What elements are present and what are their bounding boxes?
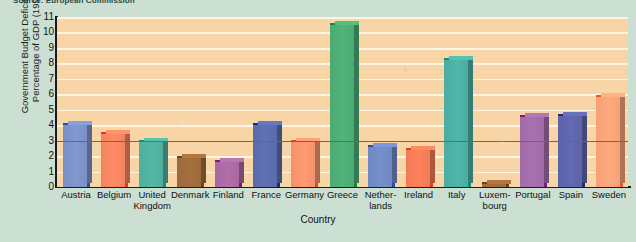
bar-side-3d xyxy=(315,138,320,183)
bar-face xyxy=(291,140,318,187)
bar-side-3d xyxy=(582,112,587,183)
bar-side-3d xyxy=(87,121,92,183)
bar-side-3d xyxy=(277,121,282,183)
bar-nether-lands xyxy=(368,147,392,187)
bar-portugal xyxy=(520,117,544,187)
bar-side-3d xyxy=(430,146,435,183)
bar-top-3d xyxy=(373,143,397,147)
bar-side-3d xyxy=(544,113,549,183)
bar-top-3d xyxy=(449,56,473,60)
bar-face xyxy=(520,115,547,187)
bar-face xyxy=(330,23,357,187)
bar-face xyxy=(253,123,280,187)
y-tick-7: 7 xyxy=(38,74,54,84)
bar-top-3d xyxy=(525,113,549,117)
bar-face xyxy=(177,156,204,187)
bar-luxem-bourg xyxy=(482,184,506,187)
bar-face xyxy=(406,148,433,187)
bar-greece xyxy=(330,25,354,187)
bar-top-3d xyxy=(258,121,282,125)
bar-side-3d xyxy=(620,93,625,183)
bar-italy xyxy=(444,60,468,187)
bar-face xyxy=(63,123,90,187)
bar-spain xyxy=(558,116,582,187)
y-tick-11: 11 xyxy=(38,12,54,22)
bar-unitedkingdom xyxy=(139,142,163,187)
bar-side-3d xyxy=(125,130,130,183)
plot-area xyxy=(57,17,628,187)
y-tick-8: 8 xyxy=(38,58,54,68)
y-tick-2: 2 xyxy=(38,151,54,161)
bar-austria xyxy=(63,125,87,187)
y-tick-10: 10 xyxy=(38,27,54,37)
bar-face xyxy=(215,160,242,187)
gridline-11 xyxy=(57,17,628,19)
bar-top-3d xyxy=(68,121,92,125)
bar-finland xyxy=(215,162,239,187)
bar-top-3d xyxy=(411,146,435,150)
bar-top-3d xyxy=(220,158,244,162)
y-tick-9: 9 xyxy=(38,43,54,53)
bar-top-3d xyxy=(182,154,206,158)
bar-side-3d xyxy=(201,154,206,183)
bar-face xyxy=(444,58,471,187)
bar-side-3d xyxy=(392,143,397,183)
y-tick-4: 4 xyxy=(38,120,54,130)
y-tick-6: 6 xyxy=(38,89,54,99)
plot-frame xyxy=(57,17,628,187)
y-tick-5: 5 xyxy=(38,105,54,115)
bar-top-3d xyxy=(563,112,587,116)
bar-belgium xyxy=(101,134,125,187)
bar-top-3d xyxy=(106,130,130,134)
bar-face xyxy=(368,145,395,187)
reference-line-maastricht xyxy=(57,141,628,143)
bar-germany xyxy=(291,142,315,187)
bar-side-3d xyxy=(468,56,473,183)
bar-top-3d xyxy=(487,180,511,184)
bar-side-3d xyxy=(354,21,359,183)
bar-top-3d xyxy=(335,21,359,25)
x-tick-sweden: Sweden xyxy=(585,190,633,201)
bar-france xyxy=(253,125,277,187)
bar-ireland xyxy=(406,150,430,187)
y-axis-tick-labels: 01234567891011 xyxy=(38,12,54,192)
y-tick-3: 3 xyxy=(38,136,54,146)
bar-face xyxy=(558,114,585,187)
bar-denmark xyxy=(177,158,201,187)
bar-face xyxy=(139,140,166,187)
y-tick-1: 1 xyxy=(38,167,54,177)
bar-side-3d xyxy=(163,138,168,183)
bar-top-3d xyxy=(601,93,625,97)
x-axis-title: Country xyxy=(0,214,636,225)
